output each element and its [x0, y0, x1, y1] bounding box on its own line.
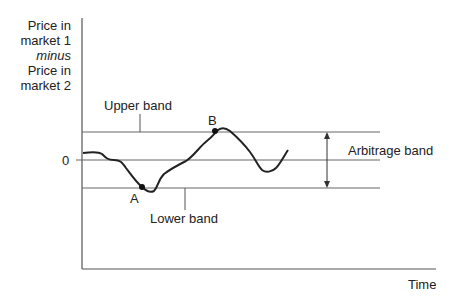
arrow-head-down-icon	[324, 181, 330, 188]
zero-tick-label: 0	[62, 153, 69, 168]
y-label-line-5: market 2	[20, 78, 71, 93]
lower-band-label: Lower band	[150, 211, 218, 226]
point-b-label: B	[208, 113, 217, 128]
arrow-head-up-icon	[324, 132, 330, 139]
upper-band-label: Upper band	[104, 98, 172, 113]
point-a-marker	[139, 184, 145, 190]
y-label-line-2: market 1	[20, 33, 71, 48]
y-label-line-4: Price in	[20, 63, 71, 78]
point-a-label: A	[130, 191, 139, 206]
y-axis-label: Price in market 1 minus Price in market …	[20, 18, 71, 93]
y-label-line-1: Price in	[20, 18, 71, 33]
point-b-marker	[212, 128, 218, 134]
x-axis-label: Time	[408, 277, 436, 292]
arbitrage-band-label: Arbitrage band	[348, 143, 433, 158]
y-label-line-3: minus	[20, 48, 71, 63]
